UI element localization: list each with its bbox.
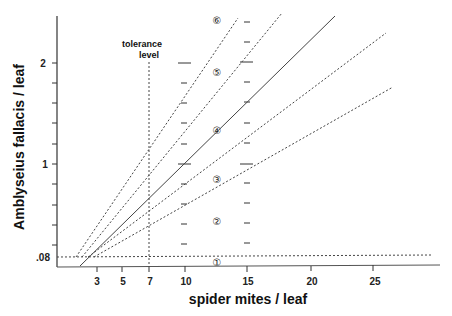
- x-tick-label-3: 3: [94, 276, 100, 287]
- region-label-5: ⑤: [213, 67, 222, 78]
- line-shallow: [88, 33, 386, 257]
- x-tick-label-25: 25: [369, 276, 381, 287]
- x-tick-label-7: 7: [147, 276, 153, 287]
- line-shallowest: [94, 87, 393, 257]
- tick-column-15: [240, 22, 253, 243]
- x-tick-label-15: 15: [242, 276, 254, 287]
- y-tick-label-008: .08: [36, 252, 50, 263]
- line-main: [80, 16, 335, 266]
- line-steep: [82, 13, 282, 257]
- y-axis-ticks: [52, 63, 57, 245]
- region-label-2: ②: [213, 216, 222, 227]
- x-tick-label-10: 10: [180, 276, 192, 287]
- region-label-1: ①: [213, 257, 222, 268]
- tolerance-label-line2: level: [139, 50, 159, 60]
- x-axis-line: [57, 265, 440, 267]
- chart-svg: 2 1 .08 3 5 7 10 15 20 25 spider mites /…: [0, 0, 452, 316]
- x-tick-label-5: 5: [120, 276, 126, 287]
- reference-line-008: [57, 255, 432, 257]
- x-tick-label-20: 20: [306, 276, 318, 287]
- y-axis-title: Amblyseius fallacis / leaf: [11, 64, 27, 230]
- region-label-3: ③: [213, 174, 222, 185]
- chart-figure: 2 1 .08 3 5 7 10 15 20 25 spider mites /…: [0, 0, 452, 316]
- tolerance-label-line1: tolerance: [122, 39, 162, 49]
- y-tick-label-1: 1: [42, 159, 48, 170]
- x-axis-title: spider mites / leaf: [189, 291, 308, 307]
- y-tick-label-2: 2: [40, 58, 46, 69]
- region-label-6: ⑥: [213, 15, 222, 26]
- region-label-4: ④: [213, 125, 222, 136]
